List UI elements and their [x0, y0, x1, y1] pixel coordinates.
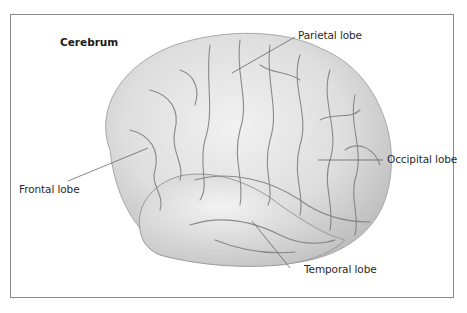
label-frontal-lobe: Frontal lobe — [19, 183, 80, 195]
label-temporal-lobe: Temporal lobe — [304, 263, 377, 275]
label-occipital-lobe: Occipital lobe — [387, 153, 457, 165]
diagram-title: Cerebrum — [60, 36, 118, 48]
label-parietal-lobe: Parietal lobe — [298, 29, 362, 41]
